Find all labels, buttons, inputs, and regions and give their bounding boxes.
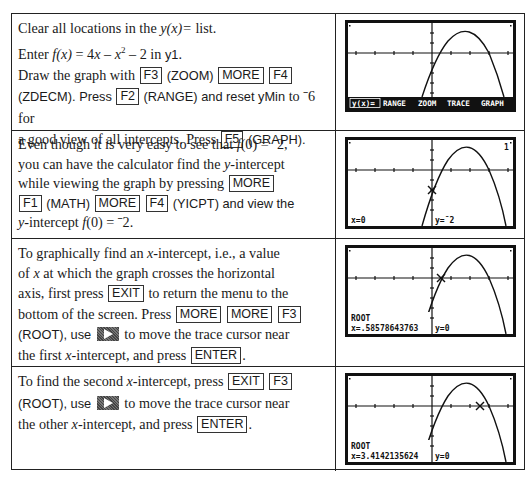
calculator-screen-root1: ROOT x=.58578643763 y=0 [345, 245, 516, 337]
menu-graph: GRAPH [481, 99, 504, 108]
step-2-screen-cell: 1 x=0 y=ˉ2 [336, 131, 524, 238]
f2-key: F2 [116, 88, 139, 105]
right-arrow-key-icon [97, 396, 119, 410]
step-3-text: To graphically find an x-intercept, i.e.… [12, 239, 336, 366]
instruction-table: Clear all locations in the y(x)= list. E… [11, 13, 525, 470]
more-key: MORE [95, 195, 141, 212]
calculator-screen-yintercept: 1 x=0 y=ˉ2 [345, 137, 516, 229]
more-key: MORE [227, 306, 273, 323]
menu-yx: y(x)= [352, 99, 375, 108]
x-readout: x=0 [351, 216, 366, 225]
y-readout: y=0 [435, 324, 450, 333]
step-1-text: Clear all locations in the y(x)= list. E… [12, 14, 336, 130]
step-row-1: Clear all locations in the y(x)= list. E… [12, 14, 524, 131]
step-row-3: To graphically find an x-intercept, i.e.… [12, 239, 524, 367]
more-key: MORE [229, 175, 275, 192]
step-row-4: To find the second x-intercept, press EX… [12, 367, 524, 471]
right-arrow-key-icon [97, 327, 119, 341]
calculator-screen-graph: y(x)= RANGE ZOOM TRACE GRAPH [345, 20, 516, 112]
enter-key: ENTER [191, 347, 241, 364]
more-key: MORE [218, 67, 264, 84]
f1-key: F1 [19, 195, 42, 212]
f4-key: F4 [269, 67, 292, 84]
root-label: ROOT [351, 314, 370, 323]
exit-key: EXIT [108, 285, 144, 302]
x-readout: x=.58578643763 [351, 324, 419, 333]
step-2-text: Even though it is very easy to see that … [12, 131, 336, 238]
step-3-screen-cell: ROOT x=.58578643763 y=0 [336, 239, 524, 366]
step-row-2: Even though it is very easy to see that … [12, 131, 524, 239]
enter-key: ENTER [197, 416, 247, 433]
step-4-text: To find the second x-intercept, press EX… [12, 367, 336, 471]
menu-zoom: ZOOM [418, 99, 437, 108]
step-4-screen-cell: ROOT x=3.4142135624 y=0 [336, 367, 524, 471]
root-label: ROOT [351, 442, 370, 451]
x-readout: x=3.4142135624 [351, 452, 419, 461]
menu-range: RANGE [383, 99, 406, 108]
f3-key: F3 [269, 373, 292, 390]
step-1-screen-cell: y(x)= RANGE ZOOM TRACE GRAPH [336, 14, 524, 130]
svg-text:1: 1 [504, 143, 509, 152]
f4-key: F4 [146, 195, 169, 212]
f3-key: F3 [278, 306, 301, 323]
exit-key: EXIT [228, 373, 264, 390]
more-key: MORE [176, 306, 222, 323]
y-readout: y=0 [435, 452, 450, 461]
f3-key: F3 [140, 67, 163, 84]
menu-trace: TRACE [447, 99, 470, 108]
y-readout: y=ˉ2 [435, 216, 454, 225]
calculator-screen-root2: ROOT x=3.4142135624 y=0 [345, 373, 516, 465]
